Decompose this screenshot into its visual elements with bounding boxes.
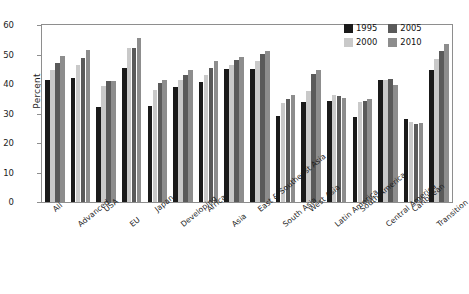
bar	[153, 90, 158, 202]
bar	[101, 86, 106, 202]
legend-item: 2010	[388, 38, 421, 47]
bar-group	[350, 25, 376, 202]
legend-swatch	[344, 38, 353, 47]
bar	[234, 60, 239, 202]
bars-layer	[42, 25, 452, 202]
y-tick-label: 40	[0, 79, 14, 89]
y-tick-label: 50	[0, 50, 14, 60]
bar	[306, 91, 311, 202]
bar-group	[68, 25, 94, 202]
legend-item: 2005	[388, 24, 421, 33]
bar	[358, 102, 363, 202]
legend-swatch	[388, 24, 397, 33]
bar-group	[324, 25, 350, 202]
bar	[86, 50, 91, 202]
bar	[204, 75, 209, 202]
bar	[106, 81, 111, 202]
bar	[353, 117, 358, 202]
bar	[122, 68, 127, 202]
bar	[265, 51, 270, 202]
legend-label: 2005	[400, 24, 421, 32]
bar	[71, 78, 76, 202]
legend-item: 2000	[344, 38, 377, 47]
bar	[162, 80, 167, 202]
bar	[363, 101, 368, 202]
bar	[214, 61, 219, 202]
bar	[250, 69, 255, 202]
y-tick-label: 60	[0, 20, 14, 30]
bar	[316, 70, 321, 202]
bar	[60, 56, 65, 202]
legend-swatch	[388, 38, 397, 47]
bar	[301, 102, 306, 202]
x-tick-label: Asia	[230, 212, 248, 229]
bar	[96, 107, 101, 202]
bar	[81, 58, 86, 202]
bar	[311, 74, 316, 202]
bar	[224, 69, 229, 202]
y-tick-label: 10	[0, 168, 14, 178]
chart-legend: 1995200520002010	[344, 22, 422, 49]
bar-group	[145, 25, 171, 202]
bar	[414, 124, 419, 202]
bar	[76, 65, 81, 202]
y-tick-label: 0	[0, 197, 14, 207]
bar-group	[42, 25, 68, 202]
bar	[439, 51, 444, 202]
bar-chart: Percent 0102030405060 AllAdvancedUSAEUJa…	[0, 0, 469, 294]
bar	[229, 65, 234, 202]
bar	[173, 87, 178, 202]
bar	[209, 68, 214, 202]
legend-item: 1995	[344, 24, 377, 33]
bar	[111, 81, 116, 202]
bar-group	[426, 25, 452, 202]
bar-group	[221, 25, 247, 202]
bar-group	[119, 25, 145, 202]
bar	[239, 57, 244, 202]
bar	[127, 48, 132, 202]
bar-group	[170, 25, 196, 202]
bar	[158, 83, 163, 202]
x-tick-label: EU	[128, 215, 142, 229]
legend-label: 2010	[400, 38, 421, 46]
legend-label: 2000	[356, 38, 377, 46]
bar	[55, 63, 60, 202]
bar	[178, 80, 183, 202]
legend-swatch	[344, 24, 353, 33]
bar	[132, 48, 137, 202]
bar-group	[247, 25, 273, 202]
bar	[183, 75, 188, 202]
bar	[137, 38, 142, 202]
bar	[409, 122, 414, 202]
bar	[444, 44, 449, 202]
bar-group	[196, 25, 222, 202]
bar	[45, 80, 50, 202]
legend-label: 1995	[356, 24, 377, 32]
bar	[199, 82, 204, 202]
bar-group	[93, 25, 119, 202]
bar	[260, 54, 265, 202]
y-tick-label: 20	[0, 138, 14, 148]
bar	[404, 119, 409, 202]
bar	[434, 59, 439, 202]
bar	[342, 98, 347, 202]
bar	[188, 70, 193, 202]
bar	[378, 80, 383, 202]
bar	[367, 99, 372, 202]
y-tick-label: 30	[0, 109, 14, 119]
bar	[50, 70, 55, 202]
bar	[148, 106, 153, 202]
bar	[255, 61, 260, 202]
